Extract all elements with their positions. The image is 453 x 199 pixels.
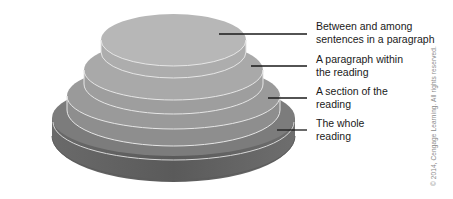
label-line: reading: [316, 130, 364, 143]
tier-sentences: [101, 14, 246, 78]
label-paragraph: A paragraph within the reading: [316, 53, 403, 78]
label-line: Between and among: [316, 20, 435, 33]
label-line: The whole: [316, 117, 364, 130]
label-whole-reading: The whole reading: [316, 117, 364, 142]
label-line: reading: [316, 98, 388, 111]
label-line: A section of the: [316, 85, 388, 98]
label-line: A paragraph within: [316, 53, 403, 66]
label-sentences: Between and among sentences in a paragra…: [316, 20, 435, 45]
copyright-notice: © 2014, Cengage Learning. All rights res…: [430, 46, 437, 186]
label-line: sentences in a paragraph: [316, 33, 435, 46]
label-line: the reading: [316, 66, 403, 79]
label-section: A section of the reading: [316, 85, 388, 110]
